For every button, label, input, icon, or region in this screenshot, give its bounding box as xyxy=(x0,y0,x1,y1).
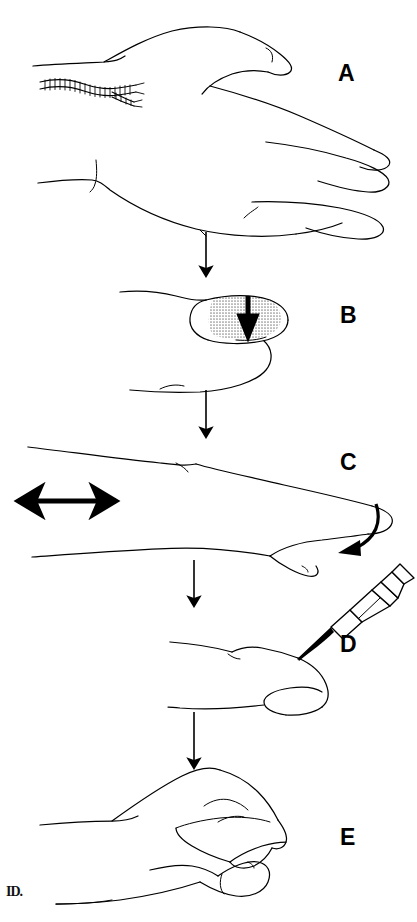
panel-label-a: A xyxy=(338,62,355,85)
panel-label-d: D xyxy=(340,633,357,656)
panel-label-b: B xyxy=(340,304,357,327)
artist-signature: ID. xyxy=(6,884,22,900)
panel-label-e: E xyxy=(340,826,355,849)
panel-label-c: C xyxy=(340,451,357,474)
figure-root: A B C D E ID. xyxy=(0,0,417,922)
